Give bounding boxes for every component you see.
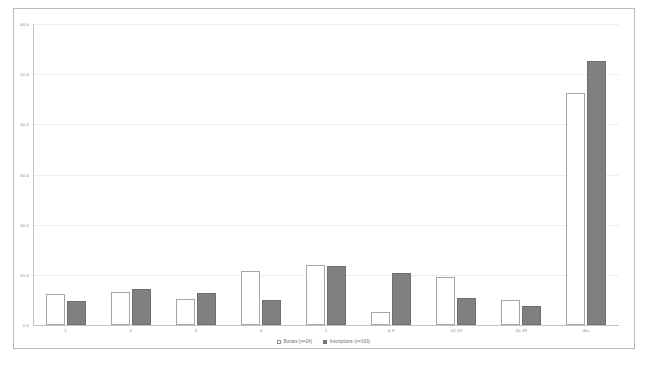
bar-inscriptions[interactable] <box>392 273 411 325</box>
y-tick-label: 0.0 <box>0 323 29 328</box>
x-tick-label: 2 <box>98 328 163 338</box>
bar-burials[interactable] <box>46 294 65 325</box>
x-axis-tick-labels: 123456-910-1920-3940+ <box>33 328 619 338</box>
bar-inscriptions[interactable] <box>327 266 346 325</box>
y-tick-label: 40.0 <box>0 122 29 127</box>
bar-burials[interactable] <box>306 265 325 325</box>
bar-burials[interactable] <box>241 271 260 325</box>
legend-swatch-icon <box>323 340 327 344</box>
y-tick-label: 20.0 <box>0 222 29 227</box>
legend-item-label: Inscriptions (n=163) <box>330 339 370 345</box>
chart-root: 0.010.020.030.040.050.060.0 123456-910-1… <box>0 0 647 365</box>
chart-legend: Burials (n=24)Inscriptions (n=163) <box>0 339 647 345</box>
bar-group <box>98 24 163 325</box>
legend-item-label: Burials (n=24) <box>283 339 312 345</box>
bar-burials[interactable] <box>111 292 130 325</box>
y-tick-label: 10.0 <box>0 272 29 277</box>
x-tick-label: 6-9 <box>359 328 424 338</box>
x-tick-label: 1 <box>33 328 98 338</box>
x-tick-label: 5 <box>293 328 358 338</box>
x-tick-label: 3 <box>163 328 228 338</box>
y-tick-label: 50.0 <box>0 72 29 77</box>
x-axis-line <box>33 325 619 326</box>
bar-group <box>489 24 554 325</box>
y-tick-label: 60.0 <box>0 22 29 27</box>
bar-group <box>424 24 489 325</box>
bar-inscriptions[interactable] <box>67 301 86 325</box>
x-tick-label: 10-19 <box>424 328 489 338</box>
legend-item[interactable]: Burials (n=24) <box>277 339 312 345</box>
bar-burials[interactable] <box>176 299 195 325</box>
bar-inscriptions[interactable] <box>262 300 281 325</box>
bar-burials[interactable] <box>566 93 585 325</box>
bar-inscriptions[interactable] <box>132 289 151 325</box>
bar-burials[interactable] <box>501 300 520 325</box>
bar-inscriptions[interactable] <box>457 298 476 325</box>
bar-group <box>359 24 424 325</box>
bar-group <box>163 24 228 325</box>
legend-swatch-icon <box>277 340 281 344</box>
bar-group <box>554 24 619 325</box>
y-tick-label: 30.0 <box>0 172 29 177</box>
bar-groups <box>33 24 619 325</box>
bar-burials[interactable] <box>436 277 455 325</box>
x-tick-label: 4 <box>228 328 293 338</box>
bar-inscriptions[interactable] <box>587 61 606 325</box>
bar-burials[interactable] <box>371 312 390 325</box>
bar-inscriptions[interactable] <box>197 293 216 325</box>
bar-group <box>228 24 293 325</box>
legend-item[interactable]: Inscriptions (n=163) <box>323 339 370 345</box>
x-tick-label: 40+ <box>554 328 619 338</box>
bar-inscriptions[interactable] <box>522 306 541 325</box>
bar-group <box>33 24 98 325</box>
x-tick-label: 20-39 <box>489 328 554 338</box>
bar-group <box>293 24 358 325</box>
